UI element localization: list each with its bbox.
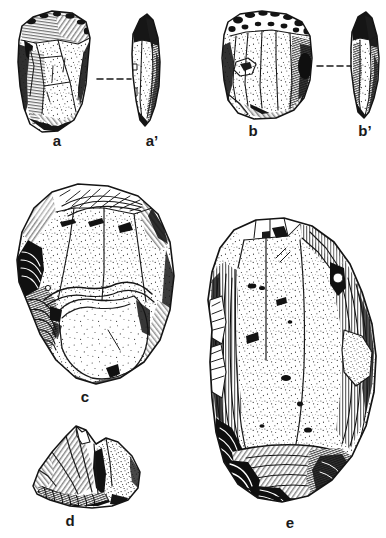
figure-label-b-prime: b’ [358,123,371,138]
figure-a-prime-drawing [126,8,168,134]
figure-e-drawing [200,212,384,508]
figure-b-drawing [216,5,318,127]
figure-label-b: b [248,123,257,138]
figure-a-drawing [10,5,100,140]
figure-label-c: c [81,389,89,404]
figure-label-a: a [53,133,61,148]
artifact-plate: a a’ b b’ c d e [0,0,386,538]
figure-d-drawing [28,420,146,512]
figure-c-drawing [10,178,182,390]
figure-label-d: d [65,513,74,528]
plate-illustration [0,0,386,538]
figure-label-e: e [286,515,294,530]
figure-label-a-prime: a’ [146,133,159,148]
